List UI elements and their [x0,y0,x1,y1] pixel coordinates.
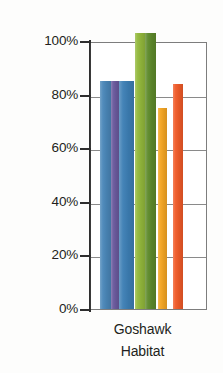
x-axis-label-line-1: Goshawk [70,318,215,340]
y-axis-tick-label: 0% [8,301,78,316]
bar [111,81,119,309]
y-axis-labels: 100%80%60%40%20%0% [2,0,78,373]
plot-area [90,42,207,310]
y-axis-tick [80,148,91,150]
x-axis-label: Goshawk Habitat [70,318,215,362]
bar [173,84,183,309]
y-axis-tick-label: 40% [8,194,78,209]
x-axis-label-line-2: Habitat [70,340,215,362]
bar [145,33,156,309]
y-axis-tick [80,309,91,311]
bar [100,81,111,309]
y-axis-tick-label: 60% [8,140,78,155]
y-axis-tick [80,95,91,97]
bar [135,33,145,309]
y-axis-tick [80,255,91,257]
chart-figure: 100%80%60%40%20%0% Goshawk Habitat [0,0,223,373]
bar [119,81,134,309]
y-axis-tick-label: 20% [8,247,78,262]
y-axis-tick-label: 80% [8,87,78,102]
y-axis-tick [80,41,91,43]
y-axis-tick [80,202,91,204]
y-axis-tick-label: 100% [8,33,78,48]
bar [158,108,167,309]
